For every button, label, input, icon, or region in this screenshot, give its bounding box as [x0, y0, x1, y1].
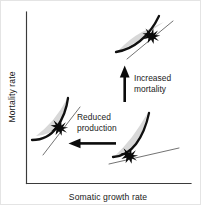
annotation-reduced-production-line2: production: [77, 123, 117, 133]
annotation-reduced-production-line1: Reduced: [77, 112, 111, 122]
left-arrow-icon: [69, 139, 117, 149]
diagram-canvas: Somatic growth rate Mortality rate Incre…: [1, 1, 201, 205]
up-arrow-icon: [120, 66, 130, 103]
y-axis-label: Mortality rate: [7, 71, 17, 122]
x-axis-label: Somatic growth rate: [69, 192, 147, 202]
figure-panel: Somatic growth rate Mortality rate Incre…: [0, 0, 201, 205]
cluster-bottom-right: [109, 113, 179, 164]
annotation-increased-mortality: Increased mortality: [134, 73, 172, 94]
cluster-left: [32, 98, 80, 155]
axes-group: [27, 12, 192, 184]
cluster-top-right: [116, 16, 173, 59]
annotation-increased-mortality-line2: mortality: [134, 84, 167, 94]
annotation-reduced-production: Reduced production: [77, 112, 117, 133]
thick-j-curve-left: [32, 98, 68, 140]
annotation-increased-mortality-line1: Increased: [134, 73, 172, 83]
